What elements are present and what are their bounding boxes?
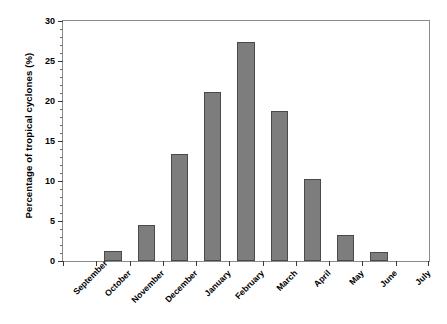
x-axis-tick	[428, 261, 429, 266]
y-axis-tick-label: 15	[45, 137, 55, 146]
bar-chart-figure: Percentage of tropical cyclones (%) 0510…	[0, 0, 447, 324]
y-axis-minor-tick	[60, 109, 63, 110]
x-axis-tick	[362, 261, 363, 266]
bar	[204, 92, 221, 261]
y-axis-minor-tick	[60, 117, 63, 118]
y-axis-minor-tick	[60, 237, 63, 238]
bar	[138, 225, 155, 261]
y-axis-minor-tick	[60, 205, 63, 206]
y-axis-tick	[58, 221, 63, 222]
y-axis-minor-tick	[60, 37, 63, 38]
y-axis-minor-tick	[60, 229, 63, 230]
y-axis-tick-label: 20	[45, 97, 55, 106]
y-axis-minor-tick	[60, 93, 63, 94]
y-axis-tick	[58, 141, 63, 142]
y-axis-minor-tick	[60, 125, 63, 126]
y-axis-minor-tick	[60, 245, 63, 246]
plot-inner: 051015202530	[63, 21, 429, 261]
x-axis-tick-label: September	[71, 268, 100, 297]
x-axis-tick	[130, 261, 131, 266]
x-axis-tick	[396, 261, 397, 266]
x-axis-tick	[196, 261, 197, 266]
y-axis-minor-tick	[60, 165, 63, 166]
y-axis-minor-tick	[60, 213, 63, 214]
y-axis-tick	[58, 21, 63, 22]
x-axis-tick	[296, 261, 297, 266]
y-axis-minor-tick	[60, 149, 63, 150]
y-axis-tick-label: 0	[50, 257, 55, 266]
y-axis-tick	[58, 101, 63, 102]
x-axis-tick	[63, 261, 64, 266]
x-axis-tick	[229, 261, 230, 266]
y-axis-minor-tick	[60, 53, 63, 54]
x-axis-tick	[163, 261, 164, 266]
y-axis-title: Percentage of tropical cyclones (%)	[23, 20, 34, 252]
y-axis-tick-label: 5	[50, 217, 55, 226]
plot-area: 051015202530	[62, 20, 430, 262]
y-axis-minor-tick	[60, 189, 63, 190]
x-axis-tick-labels: SeptemberOctoberNovemberDecemberJanuaryF…	[62, 268, 430, 324]
y-axis-tick-label: 25	[45, 57, 55, 66]
bar	[237, 42, 254, 261]
y-axis-tick-label: 30	[45, 17, 55, 26]
bar	[304, 179, 321, 261]
y-axis-minor-tick	[60, 29, 63, 30]
y-axis-minor-tick	[60, 85, 63, 86]
y-axis-minor-tick	[60, 69, 63, 70]
y-axis-tick	[58, 181, 63, 182]
y-axis-minor-tick	[60, 173, 63, 174]
x-axis-tick	[329, 261, 330, 266]
y-axis-tick	[58, 61, 63, 62]
bar	[104, 251, 121, 261]
y-axis-minor-tick	[60, 77, 63, 78]
bar	[337, 235, 354, 261]
y-axis-minor-tick	[60, 157, 63, 158]
y-axis-minor-tick	[60, 45, 63, 46]
bar	[171, 154, 188, 261]
x-axis-tick	[263, 261, 264, 266]
bar	[271, 111, 288, 261]
y-axis-minor-tick	[60, 253, 63, 254]
y-axis-minor-tick	[60, 197, 63, 198]
bar	[370, 252, 387, 261]
y-axis-tick-label: 10	[45, 177, 55, 186]
y-axis-minor-tick	[60, 133, 63, 134]
x-axis-tick-label-text: September	[71, 268, 100, 297]
